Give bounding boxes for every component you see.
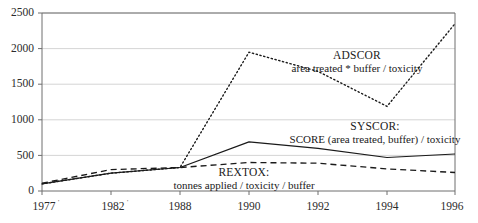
y-tick-label-1500: 1500 xyxy=(0,78,34,90)
annotation-syscor-title: SYSCOR: xyxy=(350,120,399,133)
annotation-syscor-subtitle: SCORE (area treated, buffer) / toxicity xyxy=(290,133,461,146)
y-tick-label-0: 0 xyxy=(0,185,34,197)
y-tick-label-500: 500 xyxy=(0,150,34,162)
plot-frame xyxy=(42,13,455,191)
x-tick-label-1977: 1977 xyxy=(33,200,56,212)
y-tick-label-1000: 1000 xyxy=(0,114,34,126)
annotation-rextox-subtitle: tonnes applied / toxicity / buffer xyxy=(173,179,314,192)
annotation-adscor-subtitle: area treated * buffer / toxicity xyxy=(292,62,423,75)
x-tick-label-1988: 1988 xyxy=(169,200,192,212)
x-tick-label-1996: 1996 xyxy=(441,200,464,212)
x-tick-label-1982: 1982 xyxy=(102,200,125,212)
x-tick-label-1990: 1990 xyxy=(238,200,261,212)
x-tick-mark-1982: ' xyxy=(127,199,128,206)
annotation-rextox-title: REXTOX: xyxy=(218,166,269,179)
series-line-adscor xyxy=(42,24,455,184)
line-chart: 0 500 1000 1500 2000 2500 1977 1982 1988… xyxy=(0,0,478,223)
x-tick-mark-1977: ' xyxy=(58,199,59,206)
y-tick-label-2500: 2500 xyxy=(0,7,34,19)
x-tick-label-1994: 1994 xyxy=(376,200,399,212)
y-tick-label-2000: 2000 xyxy=(0,43,34,55)
annotation-adscor-title: ADSCOR xyxy=(333,49,381,62)
y-tick-marks xyxy=(38,13,42,191)
x-tick-label-1992: 1992 xyxy=(307,200,330,212)
